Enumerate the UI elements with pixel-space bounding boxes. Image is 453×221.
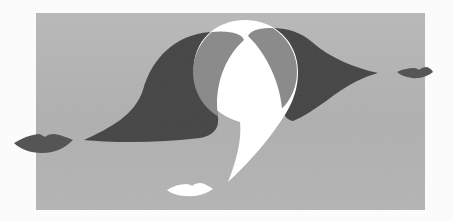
artwork-canvas [0,0,453,221]
